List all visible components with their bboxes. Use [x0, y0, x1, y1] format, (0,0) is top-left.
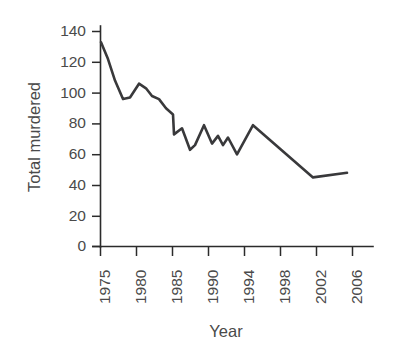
- line-chart: 140 120 100 80 60 40 20 0 1975 1980 1985…: [0, 0, 396, 364]
- x-tick-marks: [101, 246, 353, 256]
- y-tick-label: 140: [60, 22, 86, 39]
- chart-figure: 140 120 100 80 60 40 20 0 1975 1980 1985…: [0, 0, 396, 364]
- y-tick-label: 40: [69, 176, 87, 193]
- y-tick-label: 100: [60, 84, 86, 101]
- x-tick-label: 1994: [240, 269, 257, 304]
- x-tick-label: 2006: [348, 270, 365, 304]
- y-tick-label: 60: [69, 145, 87, 162]
- y-tick-label: 20: [69, 207, 87, 224]
- y-tick-label: 120: [60, 53, 86, 70]
- x-tick-label: 1990: [204, 269, 221, 304]
- x-tick-label: 1985: [168, 270, 185, 304]
- x-tick-label: 1975: [96, 270, 113, 304]
- x-axis-title: Year: [209, 322, 243, 340]
- y-tick-label: 80: [69, 114, 87, 131]
- y-tick-labels: 140 120 100 80 60 40 20 0: [60, 22, 86, 254]
- y-tick-marks: [92, 32, 100, 247]
- x-tick-label: 1980: [132, 269, 149, 304]
- y-axis-title: Total murdered: [25, 82, 43, 192]
- x-tick-label: 2002: [312, 270, 329, 304]
- x-tick-label: 1998: [276, 270, 293, 304]
- y-tick-label: 0: [77, 237, 86, 254]
- x-tick-labels: 1975 1980 1985 1990 1994 1998 2002 2006: [96, 269, 365, 304]
- data-series-line: [101, 42, 347, 177]
